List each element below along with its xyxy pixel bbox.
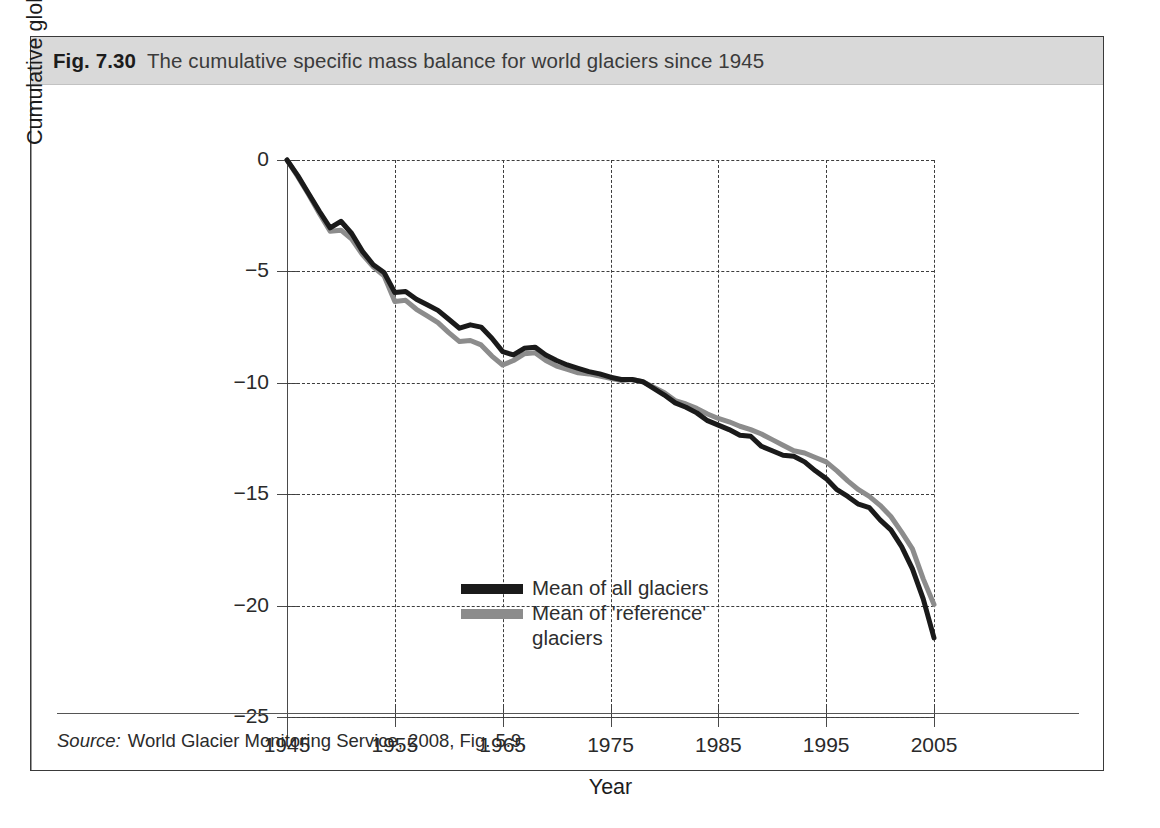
x-tick-label: 1995 (776, 733, 876, 757)
x-axis-title: Year (287, 775, 934, 800)
figure-frame: Fig. 7.30The cumulative specific mass ba… (30, 36, 1104, 771)
x-tick-label: 2005 (884, 733, 984, 757)
source-divider (57, 713, 1079, 714)
figure-caption-bar: Fig. 7.30The cumulative specific mass ba… (31, 37, 1103, 85)
series-line (287, 160, 934, 604)
legend-item: Mean of all glaciers (461, 575, 709, 600)
gridline-horizontal (287, 717, 934, 718)
y-tick-label: −25 (199, 704, 269, 728)
series-line (287, 160, 934, 638)
source-label: Source: (57, 730, 121, 751)
x-tick-label: 1985 (668, 733, 768, 757)
figure-caption-title: The cumulative specific mass balance for… (147, 49, 764, 72)
y-tick-label: −10 (199, 370, 269, 394)
y-tick-label: −5 (199, 258, 269, 282)
legend-label-all-glaciers: Mean of all glaciers (532, 575, 709, 600)
chart-legend: Mean of all glaciers Mean of 'reference'… (461, 575, 709, 650)
y-tick-label: 0 (199, 147, 269, 171)
legend-swatch-all-glaciers (461, 584, 523, 594)
figure-caption: Fig. 7.30The cumulative specific mass ba… (53, 49, 764, 73)
source-line: Source:World Glacier Monitoring Service,… (57, 730, 526, 752)
y-axis-title: Cumulative global mean specific mass bal… (23, 0, 48, 145)
source-value: World Glacier Monitoring Service, 2008, … (128, 730, 527, 751)
legend-item: Mean of 'reference' glaciers (461, 600, 709, 650)
y-tick-label: −15 (199, 481, 269, 505)
y-tick-label: −20 (199, 593, 269, 617)
x-tick-label: 1975 (561, 733, 661, 757)
legend-label-reference-glaciers: Mean of 'reference' glaciers (532, 600, 706, 650)
legend-swatch-reference-glaciers (461, 609, 523, 619)
figure-number: Fig. 7.30 (53, 49, 136, 72)
chart-container: Cumulative global mean specific mass bal… (31, 85, 1103, 772)
